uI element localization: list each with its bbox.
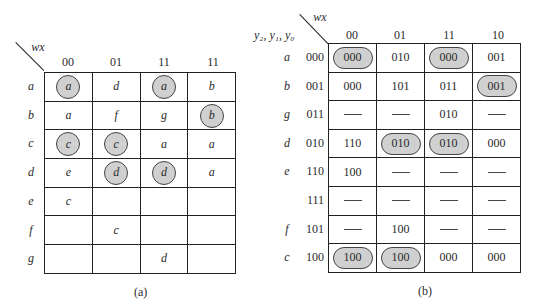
cell-value: b [209, 79, 215, 94]
kmap-cell: 010 [377, 44, 425, 73]
kmap-cell [188, 216, 236, 245]
cell-content: c [93, 216, 140, 244]
dont-care-dash [344, 229, 362, 230]
kmap-cell: 010 [377, 129, 425, 158]
kmap-table-a: adabafgbccaaeddaccd [44, 72, 236, 274]
table-row: 100 [329, 158, 521, 187]
cell-content: 000 [473, 244, 520, 272]
cell-content: 001 [473, 73, 520, 101]
col-header-b-3: 10 [474, 28, 522, 43]
kmap-cell [329, 215, 377, 244]
dont-care-dash [440, 200, 458, 201]
cell-content [45, 216, 92, 244]
cell-value: d [113, 79, 119, 94]
cell-content [329, 101, 376, 129]
cell-content: 100 [377, 244, 424, 272]
cell-value: a [209, 165, 215, 180]
table-row: 110010010000 [329, 129, 521, 158]
kmap-cell [45, 245, 93, 274]
kmap-cell: b [188, 101, 236, 130]
cell-value: g [161, 108, 167, 123]
cell-value: a [161, 137, 167, 152]
cell-content: 110 [329, 130, 376, 158]
cell-content [141, 188, 188, 216]
table-row [329, 186, 521, 215]
kmap-cell: 000 [473, 244, 521, 273]
cell-value: 100 [344, 165, 362, 180]
cell-content [425, 216, 472, 244]
col-header-a-1: 01 [92, 55, 140, 70]
cell-content: b [188, 102, 235, 130]
kmap-cell: c [45, 187, 93, 216]
cell-content: 011 [425, 73, 472, 101]
row-code-b: 001 [298, 79, 324, 94]
kmap-cell: c [92, 216, 140, 245]
kmap-cell [473, 186, 521, 215]
col-header-a-0: 00 [44, 55, 92, 70]
caption-a: (a) [134, 285, 147, 300]
row-code-b: 110 [298, 164, 324, 179]
highlight-pill: 010 [381, 133, 421, 155]
cell-value: d [161, 251, 167, 266]
kmap-cell: 000 [329, 72, 377, 101]
cell-content [377, 187, 424, 215]
cell-content: b [188, 73, 235, 101]
cell-content [377, 158, 424, 186]
highlight-circle: d [104, 161, 128, 185]
row-label-b: b [280, 79, 294, 94]
row-label-b: f [280, 222, 294, 237]
cell-content [141, 216, 188, 244]
kmap-cell [92, 245, 140, 274]
cell-value: a [209, 137, 215, 152]
dont-care-dash [392, 200, 410, 201]
cell-content [425, 158, 472, 186]
row-code-b: 011 [298, 107, 324, 122]
highlight-circle: c [56, 132, 80, 156]
kmap-cell [425, 186, 473, 215]
cell-content: a [141, 73, 188, 101]
table-row: c [45, 187, 236, 216]
kmap-cell: a [188, 159, 236, 188]
kmap-cell: c [45, 130, 93, 159]
table-row: 010 [329, 101, 521, 130]
cell-content: d [93, 73, 140, 101]
cell-value: c [66, 194, 71, 209]
cell-value: 010 [392, 50, 410, 65]
highlight-pill: 100 [333, 247, 373, 269]
dont-care-dash [488, 229, 506, 230]
cell-content [377, 101, 424, 129]
table-row: c [45, 216, 236, 245]
kmap-cell: d [140, 159, 188, 188]
kmap-cell: c [92, 130, 140, 159]
cell-content [329, 216, 376, 244]
col-header-a-3: 11 [189, 55, 237, 70]
cell-content: a [188, 130, 235, 158]
cell-content: 000 [425, 44, 472, 72]
kmap-cell: a [45, 73, 93, 102]
cell-content [473, 101, 520, 129]
table-row: 000101011001 [329, 72, 521, 101]
kmap-cell [473, 158, 521, 187]
kmap-cell [473, 215, 521, 244]
cell-content: d [93, 159, 140, 187]
cell-value: e [66, 165, 71, 180]
cell-content [473, 187, 520, 215]
table-row: 100100000000 [329, 244, 521, 273]
highlight-pill: 000 [429, 47, 469, 69]
row-label-a: e [24, 194, 38, 209]
dont-care-dash [488, 172, 506, 173]
cell-content: 100 [329, 158, 376, 186]
cell-content: 010 [425, 101, 472, 129]
corner-label-b: wx [310, 10, 330, 24]
kmap-cell [140, 216, 188, 245]
row-code-b: 100 [298, 250, 324, 265]
kmap-cell: 101 [377, 72, 425, 101]
cell-content [93, 188, 140, 216]
kmap-cell [140, 187, 188, 216]
cell-content: a [45, 102, 92, 130]
cell-content: g [141, 102, 188, 130]
cell-value: 100 [392, 222, 410, 237]
kmap-cell [377, 158, 425, 187]
cell-content: c [45, 188, 92, 216]
caption-b: (b) [418, 284, 432, 299]
